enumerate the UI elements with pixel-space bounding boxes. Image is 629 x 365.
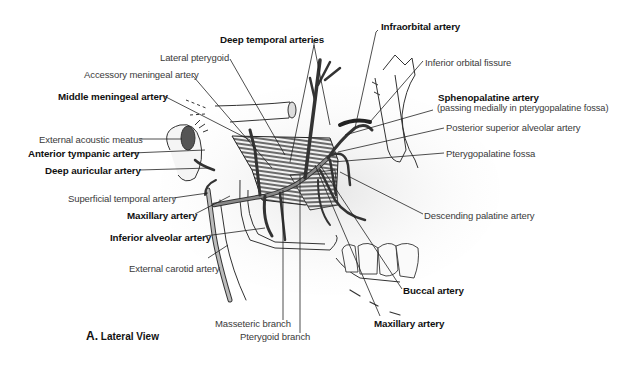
label-external-acoustic-meatus: External acoustic meatus bbox=[39, 134, 143, 145]
label-anterior-tympanic-artery: Anterior tympanic artery bbox=[28, 148, 139, 159]
label-inferior-orbital-fissure: Inferior orbital fissure bbox=[425, 57, 511, 68]
label-maxillary-artery-bottom: Maxillary artery bbox=[374, 318, 444, 329]
caption-letter: A. bbox=[86, 329, 98, 343]
label-sphenopalatine-note: (passing medially in pterygopalatine fos… bbox=[437, 103, 608, 114]
anatomy-illustration bbox=[0, 0, 629, 365]
label-external-carotid-artery: External carotid artery bbox=[129, 263, 220, 274]
label-deep-temporal-arteries: Deep temporal arteries bbox=[220, 34, 324, 45]
figure-caption: A. Lateral View bbox=[86, 329, 159, 343]
label-accessory-meningeal-artery: Accessory meningeal artery bbox=[84, 69, 199, 80]
label-inferior-alveolar-artery: Inferior alveolar artery bbox=[110, 232, 211, 243]
label-infraorbital-artery: Infraorbital artery bbox=[381, 21, 460, 32]
label-pterygopalatine-fossa: Pterygopalatine fossa bbox=[446, 148, 535, 159]
label-superficial-temporal-artery: Superficial temporal artery bbox=[68, 193, 176, 204]
caption-text: Lateral View bbox=[101, 331, 159, 342]
label-maxillary-artery-left: Maxillary artery bbox=[127, 210, 197, 221]
label-lateral-pterygoid: Lateral pterygoid bbox=[160, 52, 229, 63]
label-deep-auricular-artery: Deep auricular artery bbox=[45, 165, 141, 176]
label-buccal-artery: Buccal artery bbox=[403, 285, 464, 296]
label-middle-meningeal-artery: Middle meningeal artery bbox=[58, 91, 168, 102]
label-masseteric-branch: Masseteric branch bbox=[215, 318, 291, 329]
label-sphenopalatine-artery: Sphenopalatine artery bbox=[438, 92, 539, 103]
label-posterior-superior-alveolar-artery: Posterior superior alveolar artery bbox=[446, 122, 580, 133]
label-descending-palatine-artery: Descending palatine artery bbox=[424, 210, 534, 221]
label-pterygoid-branch: Pterygoid branch bbox=[240, 331, 310, 342]
